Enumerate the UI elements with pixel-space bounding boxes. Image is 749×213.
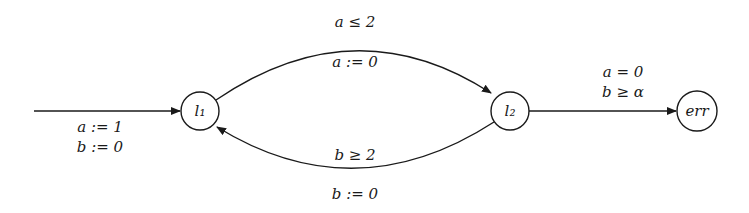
err-guard-b: b ≥ α [602, 83, 644, 101]
init-reset-a: a := 1 [77, 118, 123, 136]
node-l2-label: l₂ [505, 102, 516, 120]
init-reset-b: b := 0 [77, 138, 123, 156]
top-reset: a := 0 [332, 53, 378, 71]
bottom-guard: b ≥ 2 [334, 146, 375, 164]
bottom-reset: b := 0 [332, 185, 378, 203]
node-l1-label: l₁ [195, 102, 206, 120]
top-guard: a ≤ 2 [335, 13, 376, 31]
automaton-diagram [0, 0, 749, 213]
err-guard-a: a = 0 [603, 63, 644, 81]
node-err-label: err [685, 102, 708, 120]
